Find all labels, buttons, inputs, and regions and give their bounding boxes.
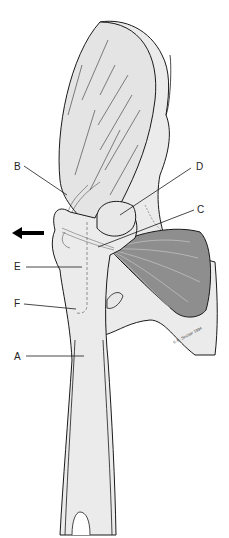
arrow-left-icon	[12, 227, 44, 239]
label-e: E	[14, 261, 21, 272]
label-d: D	[196, 161, 203, 172]
label-b: B	[14, 161, 21, 172]
label-a: A	[14, 351, 21, 362]
label-c: C	[197, 204, 204, 215]
label-f: F	[14, 298, 20, 309]
hip-anatomy-figure: B D C E F A © B. Sinclair 1994	[0, 0, 229, 538]
